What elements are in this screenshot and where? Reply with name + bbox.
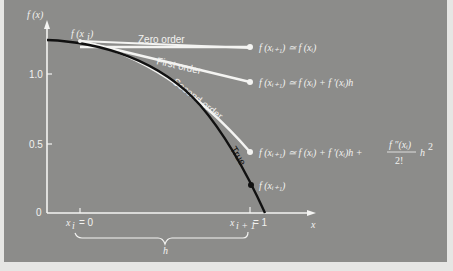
svg-text:x: x bbox=[65, 217, 71, 228]
start-point bbox=[78, 39, 82, 43]
y-tick-label-0: 0 bbox=[36, 207, 42, 218]
y-tick-label-05: 0.5 bbox=[29, 139, 43, 150]
svg-text:f ″(xᵢ): f ″(xᵢ) bbox=[389, 139, 412, 151]
true-point-label: f (xᵢ₊₁) bbox=[259, 180, 286, 192]
svg-text:f (x: f (x bbox=[71, 28, 85, 40]
zero-order-endpoint bbox=[247, 44, 253, 50]
svg-text:= 0: = 0 bbox=[79, 217, 94, 228]
svg-text:f (xᵢ₊₁) ≃ f (xᵢ) + f ′(xᵢ)h +: f (xᵢ₊₁) ≃ f (xᵢ) + f ′(xᵢ)h + bbox=[259, 147, 363, 159]
svg-text:2: 2 bbox=[428, 141, 433, 152]
taylor-series-diagram: 1.0 0.5 0 f (x) x x i = 0 x i + 1 = 1 h … bbox=[0, 0, 453, 271]
y-axis-label: f (x) bbox=[27, 9, 44, 21]
second-order-label: Second order bbox=[171, 76, 226, 122]
x-tick-label-xi1: x i + 1 = 1 bbox=[229, 217, 268, 231]
svg-text:): ) bbox=[89, 28, 94, 40]
y-axis-arrow-icon bbox=[44, 20, 50, 29]
first-order-endpoint bbox=[247, 79, 253, 85]
x-tick-label-xi: x i = 0 bbox=[65, 217, 94, 231]
zero-order-equation: f (xᵢ₊₁) ≃ f (xᵢ) bbox=[259, 42, 317, 54]
second-order-equation: f (xᵢ₊₁) ≃ f (xᵢ) + f ′(xᵢ)h + f ″(xᵢ) 2… bbox=[259, 139, 433, 166]
h-brace bbox=[75, 232, 248, 244]
svg-text:i: i bbox=[72, 220, 75, 231]
start-point-label: f (x i ) bbox=[71, 28, 94, 42]
x-axis-arrow-icon bbox=[307, 210, 316, 216]
x-axis-label: x bbox=[310, 219, 316, 230]
svg-text:x: x bbox=[229, 217, 235, 228]
y-tick-label-1: 1.0 bbox=[29, 69, 43, 80]
svg-text:= 1: = 1 bbox=[253, 217, 268, 228]
true-point bbox=[248, 182, 254, 188]
second-order-endpoint bbox=[247, 149, 253, 155]
h-label: h bbox=[163, 245, 168, 256]
first-order-equation: f (xᵢ₊₁) ≃ f (xᵢ) + f ′(xᵢ)h bbox=[259, 77, 353, 89]
zero-order-label: Zero order bbox=[138, 34, 185, 45]
svg-text:h: h bbox=[420, 147, 425, 158]
svg-text:2!: 2! bbox=[395, 155, 403, 166]
